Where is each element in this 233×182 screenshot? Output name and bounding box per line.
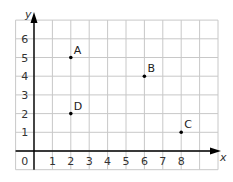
- axes: [16, 12, 221, 170]
- point-marker: [69, 56, 73, 60]
- y-tick-label: 2: [21, 108, 28, 121]
- point-label: B: [147, 62, 155, 75]
- x-tick-label: 0: [21, 155, 28, 168]
- x-tick-label: 4: [104, 155, 111, 168]
- y-tick-label: 1: [21, 126, 28, 139]
- x-axis-label: x: [219, 151, 227, 164]
- point-label: A: [74, 44, 82, 57]
- y-axis-label: y: [24, 8, 32, 21]
- point-label: D: [74, 100, 82, 113]
- x-tick-label: 6: [141, 155, 148, 168]
- x-tick-label: 2: [67, 155, 74, 168]
- y-tick-label: 5: [21, 52, 28, 65]
- coordinate-grid-chart: 012345678123456 ABCD x y: [0, 0, 233, 182]
- x-tick-label: 1: [49, 155, 56, 168]
- x-tick-label: 8: [178, 155, 185, 168]
- y-tick-label: 3: [21, 89, 28, 102]
- x-tick-label: 7: [159, 155, 166, 168]
- x-tick-label: 5: [123, 155, 130, 168]
- point-marker: [143, 74, 147, 78]
- tick-labels: 012345678123456: [21, 33, 184, 168]
- point-label: C: [184, 118, 192, 131]
- x-tick-label: 3: [86, 155, 93, 168]
- y-axis-arrow-icon: [31, 12, 38, 23]
- point-marker: [69, 112, 73, 116]
- point-marker: [179, 131, 183, 135]
- y-tick-label: 6: [21, 33, 28, 46]
- y-tick-label: 4: [21, 70, 28, 83]
- grid-lines: [16, 20, 218, 170]
